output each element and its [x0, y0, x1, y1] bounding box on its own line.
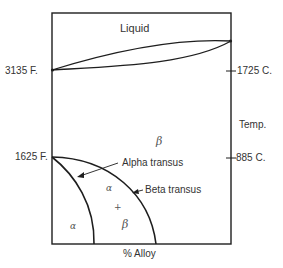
region-label-plus: +	[114, 202, 122, 212]
right-axis-title: Temp.	[239, 120, 266, 130]
region-label-alpha-in-alpha-beta: α	[106, 183, 112, 193]
right-axis-low-temp-label: 885 C.	[236, 153, 265, 163]
melting-point-marker-left	[51, 68, 54, 71]
solidus-curve	[52, 41, 231, 70]
region-label-beta-in-alpha-beta: β	[122, 220, 128, 230]
liquidus-curve	[52, 41, 231, 70]
right-axis-high-temp-label: 1725 C.	[237, 66, 272, 76]
region-label-liquid: Liquid	[120, 23, 149, 33]
left-axis-high-temp-label: 3135 F.	[5, 66, 38, 76]
left-axis-low-temp-label: 1625 F.	[15, 152, 48, 162]
region-label-beta: β	[156, 137, 162, 147]
x-axis-title: % Alloy	[123, 249, 156, 259]
alpha-transus-label: Alpha transus	[122, 158, 183, 168]
melting-point-marker-right	[229, 39, 232, 42]
region-label-alpha: α	[70, 221, 76, 231]
phase-diagram-graphic	[0, 0, 283, 268]
beta-transus-curve	[52, 157, 156, 244]
alpha-transus-arrowhead	[77, 172, 84, 178]
beta-transus-label: Beta transus	[145, 185, 201, 195]
